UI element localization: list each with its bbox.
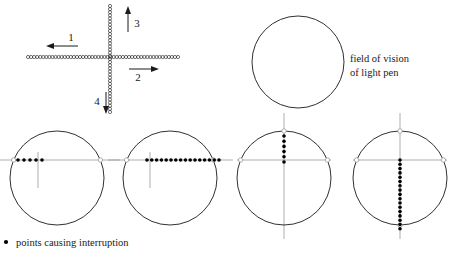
- interruption-point: [179, 158, 183, 162]
- interruption-point: [398, 214, 402, 218]
- interruption-point: [398, 188, 402, 192]
- interruption-point: [28, 158, 32, 162]
- interruption-point: [208, 158, 212, 162]
- intersection-marker: [325, 158, 329, 162]
- interruption-point: [34, 158, 38, 162]
- intersection-marker: [354, 158, 358, 162]
- interruption-point: [398, 184, 402, 188]
- interruption-point: [217, 158, 221, 162]
- interruption-point: [16, 158, 20, 162]
- intersection-marker: [441, 158, 445, 162]
- interruption-point: [398, 158, 402, 162]
- interruption-point: [398, 227, 402, 231]
- interruption-point: [164, 158, 168, 162]
- interruption-point: [398, 175, 402, 179]
- interruption-point: [188, 158, 192, 162]
- direction-label-3: 3: [134, 17, 140, 29]
- annotation-line-2: of light pen: [350, 67, 399, 78]
- interruption-point: [398, 210, 402, 214]
- caption-text: points causing interruption: [16, 237, 129, 248]
- interruption-point: [398, 223, 402, 227]
- interruption-point: [398, 206, 402, 210]
- intersection-marker: [238, 158, 242, 162]
- interruption-point: [212, 158, 216, 162]
- intersection-marker: [98, 158, 102, 162]
- interruption-point: [150, 158, 154, 162]
- interruption-point: [160, 158, 164, 162]
- diagram-canvas: 1 2 3 4 field of vision of light pen poi…: [0, 0, 452, 257]
- interruption-point: [398, 201, 402, 205]
- interruption-point: [198, 158, 202, 162]
- interruption-point: [22, 158, 26, 162]
- interruption-point: [282, 134, 286, 138]
- interruption-point: [282, 150, 286, 154]
- interruption-point: [282, 155, 286, 159]
- interruption-point: [398, 163, 402, 167]
- interruption-point: [174, 158, 178, 162]
- interruption-point: [282, 145, 286, 149]
- interruption-point: [145, 158, 149, 162]
- interruption-point: [398, 167, 402, 171]
- interruption-point: [398, 180, 402, 184]
- interruption-point: [398, 171, 402, 175]
- intersection-marker: [124, 158, 128, 162]
- interruption-point: [282, 139, 286, 143]
- interruption-point: [398, 193, 402, 197]
- direction-label-4: 4: [94, 95, 100, 107]
- interruption-point: [193, 158, 197, 162]
- interruption-point: [398, 197, 402, 201]
- direction-label-2: 2: [135, 71, 141, 83]
- intersection-marker: [11, 158, 15, 162]
- caption-bullet-icon: [4, 240, 8, 244]
- interruption-point: [40, 158, 44, 162]
- annotation-line-1: field of vision: [350, 53, 410, 64]
- interruption-point: [203, 158, 207, 162]
- direction-label-1: 1: [68, 31, 74, 43]
- interruption-point: [155, 158, 159, 162]
- interruption-point: [184, 158, 188, 162]
- interruption-point: [398, 218, 402, 222]
- interruption-point: [169, 158, 173, 162]
- intersection-marker: [282, 129, 286, 133]
- intersection-marker: [398, 129, 402, 133]
- interruption-point: [282, 160, 286, 164]
